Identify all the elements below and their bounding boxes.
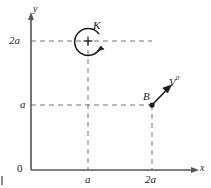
force-vector-label-main: V bbox=[169, 76, 176, 88]
force-vector-shaft bbox=[153, 90, 168, 105]
y-tick-label-a: a bbox=[20, 99, 26, 110]
y-tick-label-2a: 2a bbox=[9, 35, 20, 46]
point-b-label: B bbox=[143, 91, 150, 102]
origin-label: 0 bbox=[17, 163, 23, 174]
y-axis-label: y bbox=[33, 4, 37, 14]
force-vector-label: V0 bbox=[169, 76, 179, 88]
couple-symbol bbox=[75, 28, 104, 55]
x-axis-label: x bbox=[200, 163, 204, 173]
couple-arrowhead bbox=[97, 47, 104, 52]
x-tick-label-a: a bbox=[85, 174, 91, 185]
force-vector-label-subscript: 0 bbox=[176, 74, 180, 82]
x-tick-label-2a: 2a bbox=[145, 174, 156, 185]
axes bbox=[28, 12, 199, 173]
couple-label-k: K bbox=[93, 20, 100, 31]
page-edge-mark bbox=[1, 176, 3, 185]
figure-canvas: y x 0 2a a a 2a K B V0 bbox=[0, 0, 211, 188]
force-vector bbox=[153, 85, 172, 105]
x-axis-arrowhead bbox=[191, 167, 199, 173]
diagram-svg bbox=[0, 0, 211, 188]
guide-lines bbox=[31, 41, 152, 170]
couple-plus-sign bbox=[84, 37, 93, 46]
